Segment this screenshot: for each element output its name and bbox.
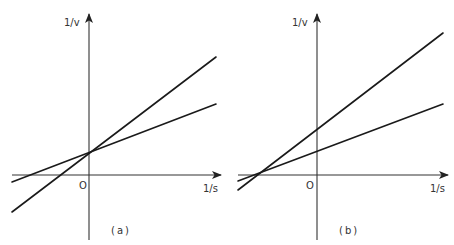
x-axis-label: 1/s (430, 183, 445, 194)
origin-label: O (79, 180, 87, 191)
panel-caption: (b) (339, 225, 359, 236)
y-axis-label: 1/v (64, 17, 80, 28)
lineweaver-burk-figure: 1/v 1/s O (a) 1/v 1/s O (b) (0, 0, 454, 245)
origin-label: O (306, 180, 314, 191)
panel-b: 1/v 1/s O (b) (238, 14, 448, 240)
steep-line (12, 57, 216, 212)
shallow-line (12, 104, 216, 182)
shallow-line (238, 104, 443, 181)
panel-caption: (a) (111, 225, 131, 236)
x-axis-label: 1/s (203, 183, 218, 194)
y-axis-label: 1/v (292, 17, 308, 28)
steep-line (238, 33, 443, 190)
panel-a: 1/v 1/s O (a) (12, 14, 221, 240)
